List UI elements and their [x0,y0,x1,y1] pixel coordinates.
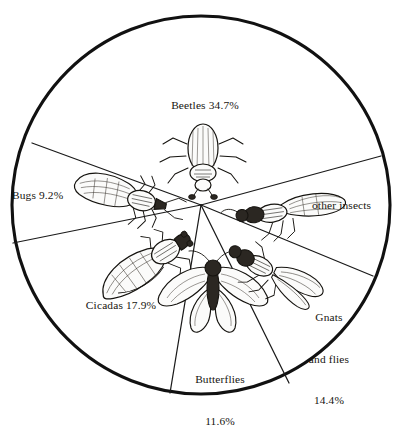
gnats-label-line-2: and flies [288,353,370,367]
slice-label-bugs: Bugs 9.2% [12,189,108,203]
slice-label-cicadas: Cicadas 17.9% [62,299,180,313]
butterflies-label-line-2: 11.6% [168,415,272,429]
slice-label-other-insects: other insects [312,199,401,213]
slice-label-beetles: Beetles 34.7% [138,99,272,113]
slice-label-gnats-and-flies: Gnats and flies 14.4% [288,283,370,429]
gnats-label-line-1: Gnats [288,311,370,325]
slice-label-butterflies: Butterflies 11.6% [168,345,272,429]
gnats-label-line-3: 14.4% [288,394,370,408]
butterflies-label-line-1: Butterflies [168,373,272,387]
